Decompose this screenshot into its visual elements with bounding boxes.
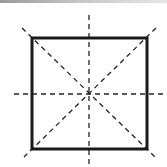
diagonal-anti-line <box>24 28 156 157</box>
square-symmetry-diagram <box>0 0 167 167</box>
